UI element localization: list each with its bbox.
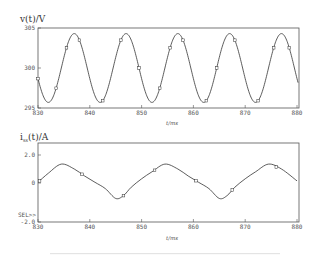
current-axis-label-rest: (t)/A: [28, 132, 49, 142]
x-tick-label: 860: [188, 223, 199, 230]
y-tick-label: 0: [31, 179, 35, 186]
voltage-plot: v(t)/V 305300295 830840850860870880 t/ms: [19, 14, 303, 126]
data-marker: [257, 99, 260, 102]
x-tick-label: 870: [240, 109, 251, 116]
data-marker: [288, 46, 291, 49]
figure-caption-faint: [50, 253, 280, 254]
x-tick-label: 840: [84, 223, 95, 230]
data-marker: [234, 39, 237, 42]
voltage-plot-frame: [38, 28, 299, 108]
x-tick-label: 850: [136, 109, 147, 116]
current-axis-label: iss(t)/A: [20, 132, 49, 143]
data-marker: [78, 39, 81, 42]
current-plot-frame: [38, 143, 299, 222]
y-tick-label: 305: [24, 24, 35, 31]
data-marker: [55, 87, 58, 90]
data-marker: [101, 99, 104, 102]
data-marker: [122, 194, 125, 197]
data-marker: [275, 166, 278, 169]
x-tick-label: 830: [33, 109, 44, 116]
x-tick-label: 850: [136, 223, 147, 230]
x-tick-label: 880: [292, 109, 303, 116]
voltage-x-ticks: 830840850860870880: [33, 105, 303, 116]
current-x-axis-label: t/ms: [166, 235, 178, 241]
voltage-x-axis-label: t/ms: [166, 120, 178, 126]
figure: v(t)/V 305300295 830840850860870880 t/ms…: [0, 0, 331, 258]
data-marker: [138, 67, 141, 70]
data-marker: [158, 87, 161, 90]
data-marker: [231, 189, 234, 192]
data-marker: [37, 77, 40, 80]
x-tick-label: 860: [188, 109, 199, 116]
voltage-y-ticks: 305300295: [24, 24, 41, 111]
data-marker: [120, 39, 123, 42]
voltage-curve: [38, 34, 298, 103]
sel-label: SEL>>: [18, 211, 36, 218]
data-marker: [205, 99, 208, 102]
data-marker: [182, 39, 185, 42]
data-marker: [195, 179, 198, 182]
data-marker: [272, 46, 275, 49]
data-marker: [81, 173, 84, 176]
data-marker: [153, 169, 156, 172]
y-tick-label: 300: [24, 64, 35, 71]
data-marker: [215, 67, 218, 70]
current-curve: [38, 164, 297, 199]
x-tick-label: 880: [292, 223, 303, 230]
data-marker: [65, 46, 68, 49]
x-tick-label: 840: [84, 109, 95, 116]
data-marker: [38, 180, 41, 183]
voltage-axis-label: v(t)/V: [19, 14, 46, 24]
current-x-ticks: 830840850860870880: [33, 219, 303, 230]
current-plot: iss(t)/A 2.00-2.0 SEL>> 8308408508608708…: [18, 132, 303, 241]
data-marker: [169, 46, 172, 49]
voltage-markers: [37, 39, 291, 102]
y-tick-label: 2.0: [24, 151, 35, 158]
x-tick-label: 870: [240, 223, 251, 230]
x-tick-label: 830: [33, 223, 44, 230]
